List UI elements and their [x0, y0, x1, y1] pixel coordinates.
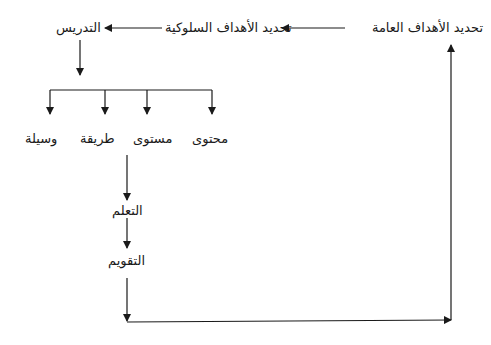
node-method: طريقة	[80, 131, 115, 147]
node-evaluation: التقويم	[108, 253, 145, 269]
node-content: محتوى	[192, 131, 228, 147]
node-teaching: التدريس	[56, 20, 101, 36]
flow-connectors	[0, 0, 491, 345]
node-behavioral-objectives: تحديد الأهداف السلوكية	[165, 20, 292, 36]
node-general-objectives: تحديد الأهداف العامة	[372, 20, 483, 36]
arrow-bottom-return	[127, 320, 451, 322]
node-level: مستوى	[133, 131, 172, 147]
node-medium: وسيلة	[25, 131, 57, 147]
node-learning: التعلم	[112, 203, 143, 219]
